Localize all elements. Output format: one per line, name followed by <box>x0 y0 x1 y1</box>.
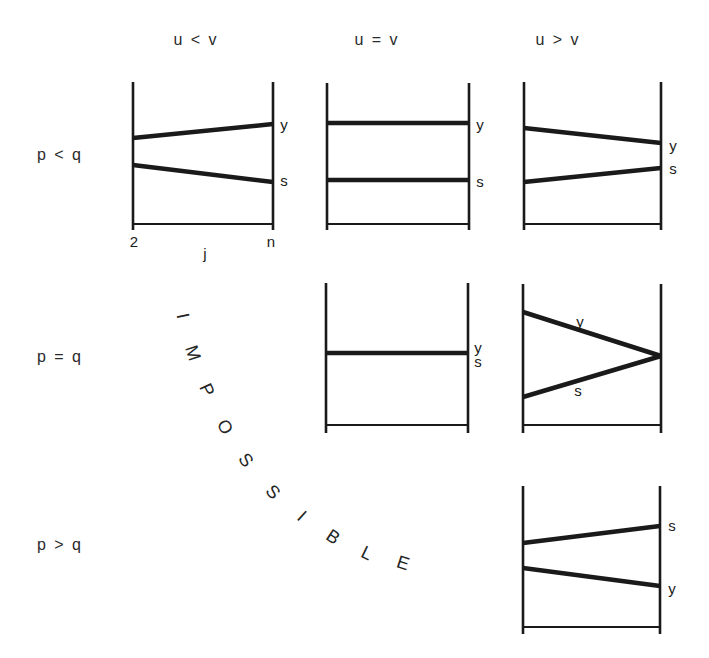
series-label-y: y <box>668 580 676 597</box>
figure-canvas: u < v u = v u > v p < q p = q p > q ys2j… <box>0 0 709 658</box>
series-line-y <box>523 568 660 586</box>
series-label-s: s <box>668 517 676 534</box>
panel-p-lt-q--u-lt-v: ys2jn <box>130 82 288 262</box>
series-line-s <box>133 165 273 182</box>
series-line-y <box>523 312 661 356</box>
panel-p-gt-q--u-gt-v: sy <box>523 486 676 634</box>
axis-tick-label-j: j <box>202 245 206 262</box>
series-line-s <box>523 356 661 397</box>
series-label-s: s <box>476 173 484 190</box>
axis-tick-label-2: 2 <box>130 233 138 250</box>
series-label-y: y <box>576 313 584 330</box>
panel-p-lt-q--u-eq-v: ys <box>327 83 484 230</box>
panel-p-lt-q--u-gt-v: ys <box>524 82 677 230</box>
series-label-s: s <box>474 353 482 370</box>
series-label-y: y <box>476 116 484 133</box>
panel-p-eq-q--u-eq-v: ys <box>326 283 482 433</box>
axis-tick-label-n: n <box>267 233 275 250</box>
series-line-y <box>133 124 273 138</box>
series-label-s: s <box>280 172 288 189</box>
series-label-y: y <box>669 137 677 154</box>
series-line-s <box>523 526 660 543</box>
series-label-s: s <box>669 160 677 177</box>
series-line-s <box>524 168 661 182</box>
panel-p-eq-q--u-gt-v: ys <box>523 284 661 433</box>
series-label-s: s <box>574 382 582 399</box>
series-label-y: y <box>280 116 288 133</box>
panels-layer: ys2jnysysysyssy <box>0 0 709 658</box>
series-line-y <box>524 128 661 143</box>
